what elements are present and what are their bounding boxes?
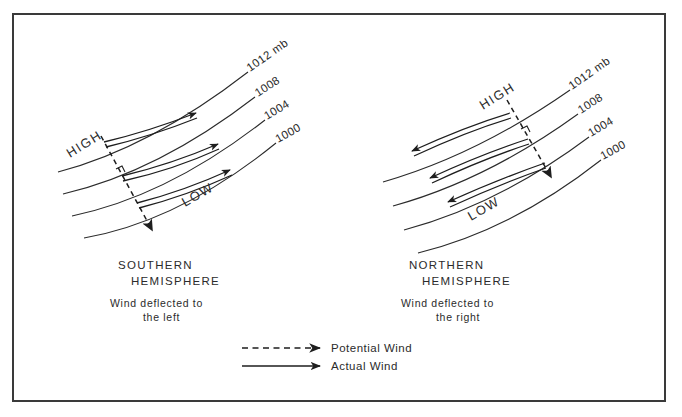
isobar-1012 (383, 90, 570, 182)
isobar-1004 (404, 137, 589, 230)
isobar-group-northern (383, 90, 601, 253)
panel-title-line2-southern: HEMISPHERE (131, 275, 220, 287)
high-label-southern: HIGH (64, 127, 105, 160)
panel-southern-hemisphere: 1012 mb 1008 1004 1000 HIGH LOW (58, 37, 303, 323)
potential-wind-arrow-southern (101, 136, 152, 230)
isobar-label-1004: 1004 (586, 114, 616, 138)
actual-wind-arrow-2-shadow (123, 149, 219, 181)
panel-title-line2-northern: HEMISPHERE (422, 275, 511, 287)
isobar-label-1004: 1004 (262, 97, 292, 121)
isobar-label-group-northern: 1012 mb 1008 1004 1000 (566, 55, 627, 162)
panel-subtitle-line1-southern: Wind deflected to (110, 297, 203, 309)
isobar-1012 (58, 72, 248, 172)
isobar-label-1008: 1008 (253, 74, 282, 99)
panel-title-line1-northern: NORTHERN (409, 259, 484, 271)
isobar-1000 (418, 160, 601, 253)
panel-title-line1-southern: SOUTHERN (118, 259, 193, 271)
high-label-northern: HIGH (477, 79, 518, 112)
isobar-label-1000: 1000 (598, 138, 628, 162)
actual-wind-arrow-2-shadow (432, 144, 529, 183)
panel-subtitle-line2-southern: the left (143, 311, 180, 323)
wind-deflection-diagram: 1012 mb 1008 1004 1000 HIGH LOW (0, 0, 682, 417)
isobar-label-1000: 1000 (273, 121, 303, 145)
actual-wind-arrow-1-shadow (106, 118, 197, 147)
panel-northern-hemisphere: 1012 mb 1008 1004 1000 HIGH LOW (383, 55, 628, 323)
figure-root: 1012 mb 1008 1004 1000 HIGH LOW (0, 0, 682, 417)
legend-potential-wind-label: Potential Wind (331, 342, 412, 354)
panel-subtitle-line1-northern: Wind deflected to (401, 297, 494, 309)
actual-wind-arrow-1 (412, 113, 510, 151)
potential-wind-arrow-northern (507, 100, 551, 177)
legend-actual-wind-label: Actual Wind (331, 360, 398, 372)
isobar-label-1012: 1012 mb (244, 37, 290, 74)
isobar-group-southern (58, 72, 276, 238)
isobar-label-1008: 1008 (576, 91, 605, 116)
panel-subtitle-line2-northern: the right (436, 311, 480, 323)
isobar-label-1012: 1012 mb (566, 55, 612, 92)
legend: Potential Wind Actual Wind (242, 342, 412, 372)
actual-wind-arrow-2 (122, 144, 218, 176)
